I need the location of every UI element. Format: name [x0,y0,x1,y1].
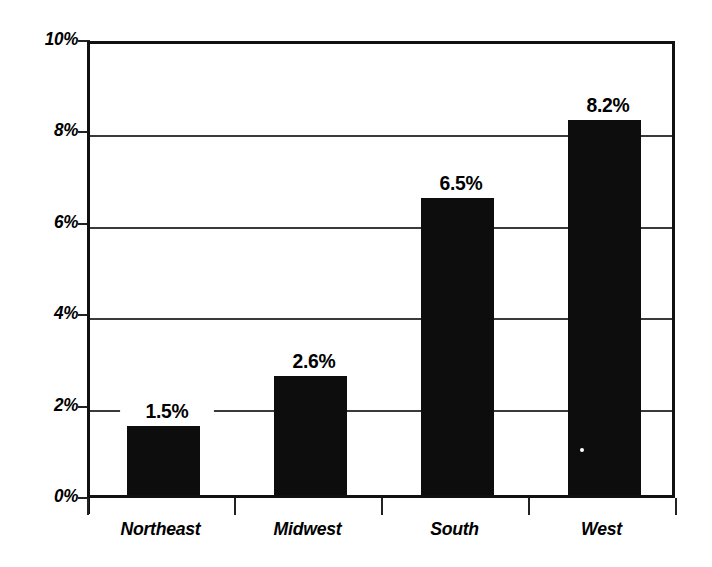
x-tick-mark-1 [234,498,236,515]
y-tick-label-4%: 4% [11,302,78,324]
scan-artifact-speck [580,448,584,452]
x-category-label-northeast: Northeast [92,518,229,540]
x-tick-mark-0 [87,498,89,515]
bar-chart: 0%2%4%6%8%10% 1.5%2.6%6.5%8.2% Northeast… [0,0,712,567]
bar-northeast [127,426,200,495]
value-label-west: 8.2% [561,92,655,118]
y-tick-label-6%: 6% [11,211,78,233]
value-label-south: 6.5% [414,170,508,196]
y-tick-label-8%: 8% [11,119,78,141]
value-label-midwest: 2.6% [267,348,361,374]
value-label-northeast: 1.5% [120,398,214,424]
x-category-label-west: West [533,518,670,540]
y-tick-label-0%: 0% [11,485,78,507]
bar-south [421,198,494,495]
x-category-label-south: South [386,518,523,540]
x-tick-mark-4 [675,498,677,515]
y-tick-label-2%: 2% [11,394,78,416]
x-category-label-midwest: Midwest [239,518,376,540]
x-tick-mark-3 [528,498,530,515]
bar-west [568,120,641,495]
bar-midwest [274,376,347,495]
x-tick-mark-2 [381,498,383,515]
y-tick-label-10%: 10% [11,28,78,50]
